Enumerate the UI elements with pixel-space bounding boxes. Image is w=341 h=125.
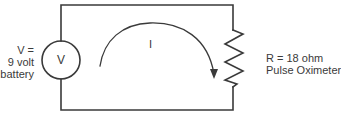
resistor-label-line-1: R = 18 ohm: [266, 52, 341, 64]
current-label: I: [149, 38, 152, 50]
resistor-label: R = 18 ohm Pulse Oximeter: [266, 52, 341, 76]
current-arrowhead-icon: [210, 69, 218, 79]
wire-bottom: [61, 79, 233, 110]
voltage-label-line-2: 9 volt: [0, 56, 34, 68]
voltage-source-label: V = 9 volt battery: [0, 44, 34, 80]
voltage-source-symbol: V: [42, 41, 80, 79]
current-arrow-arc: [100, 23, 214, 74]
voltage-label-line-3: battery: [0, 68, 34, 80]
resistor-zigzag: [225, 30, 243, 87]
voltage-label-line-1: V =: [0, 44, 34, 56]
resistor-label-line-2: Pulse Oximeter: [266, 64, 341, 76]
